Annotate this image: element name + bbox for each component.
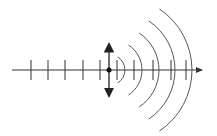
- doppler-diagram: [0, 0, 217, 136]
- doppler-diagram-svg: [0, 0, 217, 136]
- source-dot: [107, 68, 112, 73]
- wave-source: [107, 46, 112, 94]
